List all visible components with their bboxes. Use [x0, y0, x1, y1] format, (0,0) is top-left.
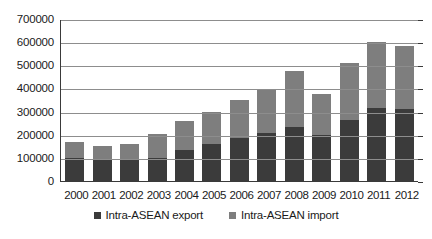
legend-item[interactable]: Intra-ASEAN import	[229, 210, 338, 222]
y-tick-label: 400000	[17, 84, 54, 96]
bar-group	[120, 20, 139, 181]
x-tick-label: 2001	[92, 186, 111, 204]
y-axis-tick	[418, 182, 423, 183]
bar-group	[148, 20, 167, 181]
y-tick-label: 500000	[17, 61, 54, 73]
bar-segment-import	[202, 112, 221, 143]
bar-segment-import	[285, 71, 304, 127]
bar-segment-export	[148, 158, 167, 181]
bar-segment-export	[93, 159, 112, 181]
bar-segment-import	[395, 46, 414, 108]
y-tick-label: 100000	[17, 153, 54, 165]
bar-series-container	[61, 20, 418, 181]
stacked-bar-chart: 7000006000005000004000003000002000001000…	[0, 0, 432, 239]
bar-group	[230, 20, 249, 181]
bar-group	[65, 20, 84, 181]
x-tick-label: 2007	[257, 186, 276, 204]
bar-group	[312, 20, 331, 181]
y-tick-label: 600000	[17, 37, 54, 49]
x-tick-label: 2003	[147, 186, 166, 204]
x-tick-label: 2011	[367, 186, 386, 204]
bar-segment-export	[175, 150, 194, 181]
x-tick-label: 2000	[64, 186, 83, 204]
bar-segment-import	[340, 63, 359, 120]
x-tick-label: 2006	[229, 186, 248, 204]
x-tick-label: 2010	[340, 186, 359, 204]
x-tick-label: 2005	[202, 186, 221, 204]
y-axis-tick	[418, 66, 423, 67]
gridline	[61, 20, 418, 21]
x-tick-label: 2008	[285, 186, 304, 204]
bar-segment-export	[367, 108, 386, 181]
y-axis-tick	[418, 159, 423, 160]
legend-label: Intra-ASEAN export	[106, 210, 203, 222]
gridline	[61, 43, 418, 44]
bar-segment-export	[120, 159, 139, 181]
y-tick-label: 0	[48, 176, 54, 188]
x-tick-label: 2004	[174, 186, 193, 204]
legend-item[interactable]: Intra-ASEAN export	[94, 210, 203, 222]
legend-swatch-icon	[229, 212, 236, 219]
bar-segment-import	[148, 134, 167, 158]
bar-group	[395, 20, 414, 181]
bar-group	[93, 20, 112, 181]
legend-label: Intra-ASEAN import	[241, 210, 338, 222]
y-axis-tick	[418, 89, 423, 90]
gridline	[61, 136, 418, 137]
bar-group	[175, 20, 194, 181]
bar-segment-export	[340, 120, 359, 181]
y-axis: 7000006000005000004000003000002000001000…	[0, 20, 58, 182]
bar-segment-export	[65, 158, 84, 181]
chart-legend: Intra-ASEAN exportIntra-ASEAN import	[0, 210, 432, 222]
gridline	[61, 159, 418, 160]
bar-group	[285, 20, 304, 181]
y-tick-label: 700000	[17, 14, 54, 26]
x-tick-label: 2012	[395, 186, 414, 204]
y-tick-label: 300000	[17, 107, 54, 119]
bar-segment-import	[93, 146, 112, 159]
y-axis-tick	[418, 136, 423, 137]
plot-area	[60, 20, 418, 182]
y-tick-label: 200000	[17, 130, 54, 142]
bar-segment-import	[312, 94, 331, 136]
bar-group	[367, 20, 386, 181]
y-axis-tick	[418, 20, 423, 21]
bar-segment-import	[257, 89, 276, 133]
y-axis-tick	[418, 113, 423, 114]
gridline	[61, 89, 418, 90]
bar-segment-export	[257, 133, 276, 181]
x-tick-label: 2009	[312, 186, 331, 204]
gridline	[61, 113, 418, 114]
bar-group	[257, 20, 276, 181]
x-axis: 2000200120022003200420052006200720082009…	[60, 186, 418, 204]
gridline	[61, 66, 418, 67]
bar-group	[202, 20, 221, 181]
bar-group	[340, 20, 359, 181]
legend-swatch-icon	[94, 212, 101, 219]
bar-segment-import	[230, 100, 249, 137]
y-axis-tick	[418, 43, 423, 44]
bar-segment-import	[120, 144, 139, 158]
bar-segment-import	[65, 142, 84, 158]
bar-segment-export	[395, 109, 414, 181]
x-tick-label: 2002	[119, 186, 138, 204]
bar-segment-import	[367, 42, 386, 108]
bar-segment-export	[202, 144, 221, 181]
